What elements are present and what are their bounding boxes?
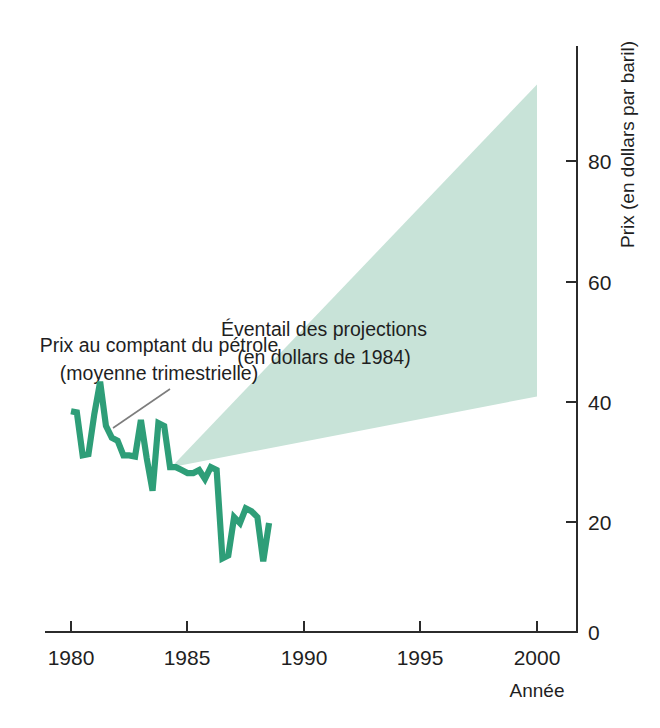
oil-price-projection-chart: 80 60 40 20 0 Prix (en dollars par baril…: [0, 0, 660, 728]
y-tick-label-60: 60: [588, 271, 611, 294]
y-tick-label-0: 0: [588, 621, 600, 644]
y-axis-title: Prix (en dollars par baril): [617, 41, 638, 248]
x-axis-title: Année: [510, 680, 565, 701]
x-tick-label-1990: 1990: [281, 646, 328, 669]
y-tick-label-80: 80: [588, 150, 611, 173]
series-callout-line2: (moyenne trimestrielle): [60, 362, 258, 384]
x-tick-label-2000: 2000: [514, 646, 561, 669]
projection-fan-shape: [171, 84, 537, 467]
y-tick-label-20: 20: [588, 511, 611, 534]
x-tick-label-1985: 1985: [164, 646, 211, 669]
x-tick-label-1980: 1980: [48, 646, 95, 669]
y-tick-label-40: 40: [588, 391, 611, 414]
series-callout-line1: Prix au comptant du pétrole: [40, 334, 278, 356]
x-tick-label-1995: 1995: [397, 646, 444, 669]
chart-canvas: 80 60 40 20 0 Prix (en dollars par baril…: [0, 0, 660, 728]
